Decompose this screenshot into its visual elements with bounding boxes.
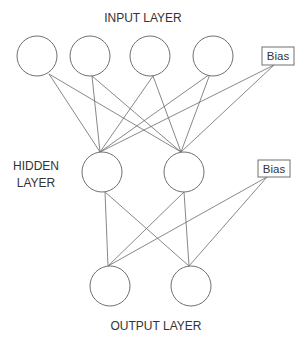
input-node-3 — [130, 36, 170, 76]
edge-bias-h2 — [181, 65, 274, 152]
edge-i4-h2 — [181, 74, 210, 152]
input-node-4 — [193, 36, 233, 76]
hidden-node-1 — [82, 152, 122, 192]
hidden-layer-label-line1: HIDDEN — [13, 159, 59, 173]
output-node-2 — [171, 266, 211, 306]
edge-h2-o1 — [108, 192, 184, 266]
edge-i1-h2 — [49, 74, 181, 152]
input-to-hidden-edges — [49, 65, 274, 152]
edge-i1-h1 — [49, 74, 100, 152]
input-bias-label: Bias — [267, 50, 290, 62]
hidden-node-2 — [164, 152, 204, 192]
input-layer-label: INPUT LAYER — [104, 11, 182, 25]
output-layer — [90, 266, 211, 306]
input-layer: Bias — [17, 36, 294, 76]
edge-hbias-o2 — [189, 177, 267, 266]
edge-i3-h1 — [100, 76, 153, 152]
edge-bias-h1 — [100, 65, 274, 152]
edge-h2-o2 — [184, 192, 189, 266]
hidden-bias-label: Bias — [263, 163, 286, 175]
neural-network-diagram: Bias Bias INPUT LAYER HIDDEN LAYER OUTPU… — [0, 0, 306, 339]
output-layer-label: OUTPUT LAYER — [111, 319, 202, 333]
edge-h1-o2 — [105, 192, 189, 266]
input-node-2 — [70, 36, 110, 76]
edge-h1-o1 — [105, 192, 108, 266]
input-node-1 — [17, 36, 57, 76]
output-node-1 — [90, 266, 130, 306]
edge-i2-h2 — [92, 76, 181, 152]
hidden-layer-label-line2: LAYER — [17, 176, 56, 190]
edge-i2-h1 — [92, 76, 100, 152]
